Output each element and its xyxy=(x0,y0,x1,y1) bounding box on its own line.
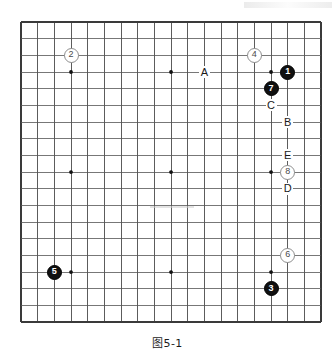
stone-number-label: 1 xyxy=(285,67,290,76)
stone-number-label: 2 xyxy=(68,50,73,59)
point-marker-D[interactable]: D xyxy=(282,183,293,195)
stone-white-6[interactable]: 6 xyxy=(280,248,295,263)
stone-number-label: 7 xyxy=(269,84,274,93)
stone-number-label: 6 xyxy=(285,250,290,259)
stone-black-3[interactable]: 3 xyxy=(264,281,279,296)
stone-white-8[interactable]: 8 xyxy=(280,165,295,180)
stone-white-2[interactable]: 2 xyxy=(64,48,79,63)
stone-black-5[interactable]: 5 xyxy=(47,265,62,280)
point-marker-C[interactable]: C xyxy=(266,99,277,111)
stone-black-1[interactable]: 1 xyxy=(280,65,295,80)
go-board[interactable]: 12345678ACBED xyxy=(0,0,335,330)
point-marker-B[interactable]: B xyxy=(282,116,293,128)
figure-caption: 图5-1 xyxy=(0,334,335,350)
stone-number-label: 3 xyxy=(269,284,274,293)
go-diagram-figure: 12345678ACBED 图5-1 xyxy=(0,0,335,362)
stone-number-label: 4 xyxy=(252,50,257,59)
stone-number-label: 5 xyxy=(52,267,57,276)
stone-white-4[interactable]: 4 xyxy=(247,48,262,63)
point-marker-E[interactable]: E xyxy=(282,149,293,161)
point-marker-A[interactable]: A xyxy=(199,66,210,78)
stone-number-label: 8 xyxy=(285,167,290,176)
stone-black-7[interactable]: 7 xyxy=(264,81,279,96)
